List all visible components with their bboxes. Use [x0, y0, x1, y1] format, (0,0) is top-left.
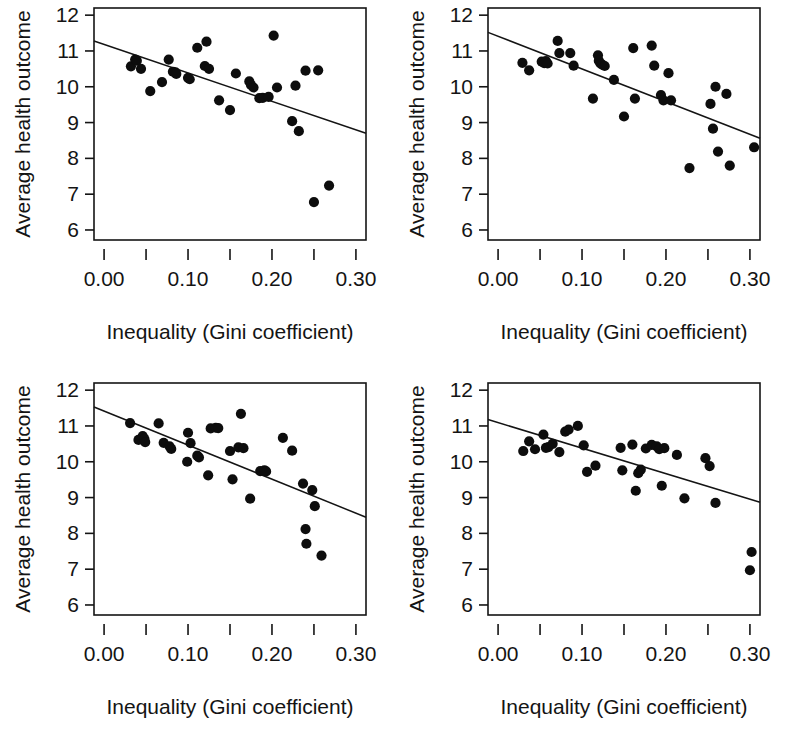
data-point [185, 438, 195, 448]
y-axis-title: Average health outcome [405, 385, 428, 612]
data-point [140, 437, 150, 447]
y-tick-label: 9 [67, 111, 79, 134]
plot-frame [488, 383, 760, 615]
data-point [721, 89, 731, 99]
data-point [300, 524, 310, 534]
data-point [248, 82, 258, 92]
x-axis: 0.000.100.200.30 [84, 624, 377, 665]
y-tick-label: 12 [450, 3, 473, 26]
y-axis-title: Average health outcome [405, 10, 428, 237]
data-point [565, 48, 575, 58]
data-point [563, 424, 573, 434]
data-point [203, 470, 213, 480]
data-point [554, 447, 564, 457]
data-point [590, 461, 600, 471]
data-point [145, 86, 155, 96]
y-tick-label: 6 [461, 593, 473, 616]
data-point [657, 481, 667, 491]
data-point [616, 443, 626, 453]
data-point [588, 93, 598, 103]
y-tick-label: 6 [461, 218, 473, 241]
data-point [269, 30, 279, 40]
data-point [136, 64, 146, 74]
data-point [573, 421, 583, 431]
data-point [313, 65, 323, 75]
y-tick-label: 6 [67, 593, 79, 616]
data-point [672, 450, 682, 460]
data-point [524, 65, 534, 75]
x-tick-label: 0.00 [84, 267, 125, 290]
data-point [164, 54, 174, 64]
y-axis: 6789101112 [450, 378, 488, 616]
x-tick-label: 0.30 [335, 642, 376, 665]
data-point [627, 439, 637, 449]
y-tick-label: 7 [461, 557, 473, 580]
data-point [600, 61, 610, 71]
plot-frame [94, 8, 366, 240]
data-point [548, 439, 558, 449]
y-tick-label: 11 [451, 414, 473, 437]
y-tick-label: 11 [57, 39, 79, 62]
data-point [192, 43, 202, 53]
x-axis: 0.000.100.200.30 [478, 624, 771, 665]
data-point [705, 99, 715, 109]
data-point [530, 444, 540, 454]
data-point [554, 48, 564, 58]
scatter-plot-figure: 67891011120.000.100.200.30Average health… [0, 0, 788, 749]
x-tick-label: 0.30 [335, 267, 376, 290]
plot-frame [488, 8, 760, 240]
data-point [154, 418, 164, 428]
x-axis-title: Inequality (Gini coefficient) [106, 320, 353, 343]
y-tick-label: 8 [461, 521, 473, 544]
x-tick-label: 0.20 [646, 267, 687, 290]
data-point [287, 116, 297, 126]
data-point [553, 36, 563, 46]
y-tick-label: 9 [67, 486, 79, 509]
y-tick-label: 8 [67, 146, 79, 169]
data-point [183, 428, 193, 438]
data-point [310, 501, 320, 511]
x-tick-label: 0.10 [168, 267, 209, 290]
data-point [705, 461, 715, 471]
x-tick-label: 0.30 [729, 642, 770, 665]
data-point [663, 68, 673, 78]
data-point [307, 485, 317, 495]
data-point [264, 92, 274, 102]
data-point [684, 163, 694, 173]
data-point [309, 197, 319, 207]
y-tick-label: 12 [56, 3, 79, 26]
scatter-panel-bottom-left: 67891011120.000.100.200.30Average health… [0, 375, 394, 749]
x-tick-label: 0.00 [478, 642, 519, 665]
data-point [636, 465, 646, 475]
data-point [617, 465, 627, 475]
data-point [710, 498, 720, 508]
x-axis-title: Inequality (Gini coefficient) [500, 695, 747, 718]
data-point [316, 550, 326, 560]
data-point [579, 440, 589, 450]
scatter-panel-top-right: 67891011120.000.100.200.30Average health… [394, 0, 788, 374]
data-point [287, 446, 297, 456]
data-point [666, 95, 676, 105]
data-point [182, 457, 192, 467]
x-tick-label: 0.30 [729, 267, 770, 290]
y-axis: 6789101112 [450, 3, 488, 241]
x-axis-title: Inequality (Gini coefficient) [106, 695, 353, 718]
regression-line [488, 420, 760, 503]
data-point [166, 444, 176, 454]
data-point [749, 142, 759, 152]
data-point [619, 111, 629, 121]
data-point [659, 443, 669, 453]
data-point [294, 126, 304, 136]
y-tick-label: 10 [56, 450, 79, 473]
data-point [272, 82, 282, 92]
x-axis: 0.000.100.200.30 [478, 249, 771, 290]
data-point [201, 37, 211, 47]
y-tick-label: 9 [461, 111, 473, 134]
data-point [171, 69, 181, 79]
data-point [713, 146, 723, 156]
data-point [518, 446, 528, 456]
y-tick-label: 12 [56, 378, 79, 401]
y-tick-label: 7 [67, 557, 79, 580]
y-axis: 6789101112 [56, 3, 94, 241]
y-tick-label: 8 [461, 146, 473, 169]
